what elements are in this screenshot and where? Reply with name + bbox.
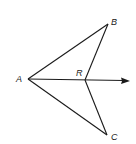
label-a: A bbox=[15, 74, 22, 84]
label-b: B bbox=[111, 17, 117, 27]
label-c: C bbox=[111, 132, 118, 142]
label-r: R bbox=[76, 68, 83, 78]
segment-ac bbox=[28, 79, 107, 135]
geometry-diagram: A B C R bbox=[0, 0, 136, 144]
segment-ab bbox=[28, 24, 108, 79]
arrowhead-icon bbox=[121, 78, 130, 85]
ray-ar bbox=[28, 79, 124, 81]
